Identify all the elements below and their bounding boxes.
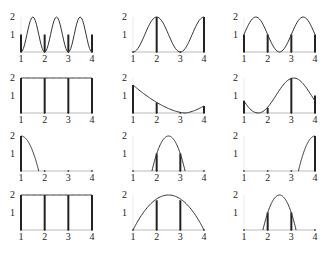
x-tick-label: 3 xyxy=(289,231,294,242)
x-tick-label: 2 xyxy=(265,231,270,242)
y-tick-label: 1 xyxy=(233,207,238,218)
chart-panel-r4c3: 123412 xyxy=(0,0,332,255)
x-tick-label: 1 xyxy=(242,231,247,242)
small-multiples-grid: 1234121234121234121234121234121234121234… xyxy=(0,0,332,255)
x-tick-label: 4 xyxy=(313,231,318,242)
y-tick-label: 2 xyxy=(233,189,238,200)
